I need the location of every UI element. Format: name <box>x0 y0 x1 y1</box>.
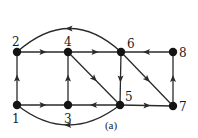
node-label-5: 5 <box>125 90 133 104</box>
directed-graph-diagram: 12345678 (a) <box>0 0 198 138</box>
arrows-layer <box>14 26 176 129</box>
node-label-2: 2 <box>12 35 20 49</box>
node-3 <box>64 101 72 109</box>
node-6 <box>117 48 125 56</box>
node-1 <box>13 101 21 109</box>
node-label-7: 7 <box>179 100 187 114</box>
labels-layer: 12345678 <box>12 35 187 126</box>
node-label-6: 6 <box>127 37 135 51</box>
node-5 <box>116 101 124 109</box>
node-4 <box>64 48 72 56</box>
figure-caption: (a) <box>105 119 118 132</box>
node-label-3: 3 <box>64 112 72 126</box>
node-label-1: 1 <box>12 112 20 126</box>
node-8 <box>169 48 177 56</box>
node-label-4: 4 <box>64 35 72 49</box>
node-label-8: 8 <box>179 46 187 60</box>
node-7 <box>169 102 177 110</box>
node-2 <box>13 48 21 56</box>
